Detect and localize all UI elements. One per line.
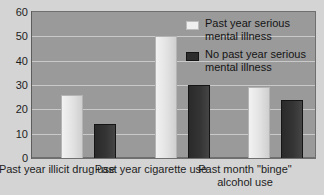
y-tick-0: 0 xyxy=(0,153,28,164)
legend: Past year serious mental illness No past… xyxy=(186,17,306,79)
bar-light-1 xyxy=(155,36,177,158)
legend-swatch-dark-icon xyxy=(186,52,199,61)
x-label-2: Past month "binge" alcohol use xyxy=(185,163,305,189)
bar-light-2 xyxy=(248,87,270,158)
legend-swatch-light-icon xyxy=(186,21,199,30)
bar-dark-1 xyxy=(188,85,210,158)
legend-label-0: Past year serious mental illness xyxy=(205,17,290,42)
y-tick-30: 30 xyxy=(0,80,28,91)
y-tick-10: 10 xyxy=(0,128,28,139)
y-tick-50: 50 xyxy=(0,31,28,42)
bar-chart: 60 50 40 30 20 10 0 Past year illicit dr… xyxy=(0,0,324,195)
y-tick-60: 60 xyxy=(0,7,28,18)
y-tick-40: 40 xyxy=(0,55,28,66)
legend-item-0: Past year serious mental illness xyxy=(186,17,306,42)
bar-light-0 xyxy=(61,95,83,158)
bar-dark-2 xyxy=(281,100,303,158)
legend-label-1: No past year serious mental illness xyxy=(205,48,306,73)
y-tick-20: 20 xyxy=(0,104,28,115)
bar-dark-0 xyxy=(94,124,116,158)
legend-item-1: No past year serious mental illness xyxy=(186,48,306,73)
